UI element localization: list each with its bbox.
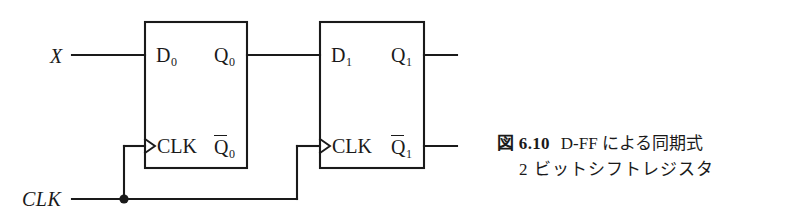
pin-d1-letter: D — [331, 44, 345, 66]
input-label-x: X — [50, 46, 63, 66]
pin-d0-index: 0 — [171, 55, 177, 69]
pin-q0-letter: Q — [214, 44, 228, 66]
pin-q0-index: 0 — [229, 55, 235, 69]
pin-q1-index: 1 — [406, 55, 412, 69]
clk-junction-dot — [119, 194, 128, 203]
clock-triangle-ff0 — [145, 139, 155, 153]
pin-d0: D0 — [156, 45, 176, 65]
pin-d1-index: 1 — [346, 55, 352, 69]
pin-clk-ff0: CLK — [157, 136, 197, 156]
pin-q0: Q0 — [214, 45, 234, 65]
pin-d1: D1 — [331, 45, 351, 65]
figure-shift-register: X CLK D0 Q0 CLK Q0 D1 Q1 CLK Q1 図 6.10D-… — [0, 0, 788, 224]
figure-number: 図 6.10 — [497, 134, 550, 153]
pin-q1-letter: Q — [391, 44, 405, 66]
pin-q0-bar: Q0 — [214, 136, 234, 157]
pin-q1: Q1 — [391, 45, 411, 65]
figure-caption: 図 6.10D-FF による同期式 2 ビットシフトレジスタ — [497, 131, 782, 183]
figure-title: D-FF による同期式 — [561, 134, 703, 153]
pin-q1-bar: Q1 — [391, 136, 411, 157]
pin-clk-ff1: CLK — [332, 136, 372, 156]
clock-triangle-ff1 — [320, 139, 330, 153]
circuit-schematic — [0, 0, 788, 224]
input-label-clk: CLK — [22, 189, 61, 209]
pin-d0-letter: D — [156, 44, 170, 66]
pin-q0-bar-index: 0 — [229, 147, 235, 161]
caption-line-1: 図 6.10D-FF による同期式 — [497, 131, 782, 157]
pin-q0-bar-letter: Q — [214, 136, 228, 157]
pin-q1-bar-letter: Q — [391, 136, 405, 157]
caption-line-2: 2 ビットシフトレジスタ — [497, 157, 782, 183]
pin-q1-bar-index: 1 — [406, 147, 412, 161]
